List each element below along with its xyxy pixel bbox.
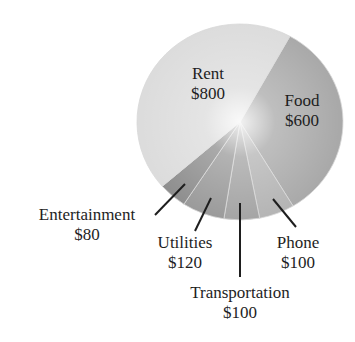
label-phone-value: $100 <box>263 253 333 273</box>
label-transportation-name: Transportation <box>175 283 305 303</box>
label-phone-name: Phone <box>263 233 333 253</box>
label-transportation: Transportation $100 <box>175 283 305 323</box>
label-food: Food $600 <box>273 91 331 131</box>
label-rent-value: $800 <box>178 84 238 104</box>
label-entertainment-name: Entertainment <box>22 205 152 225</box>
label-utilities-value: $120 <box>145 253 225 273</box>
label-phone: Phone $100 <box>263 233 333 273</box>
label-rent: Rent $800 <box>178 64 238 104</box>
label-rent-name: Rent <box>178 64 238 84</box>
label-utilities: Utilities $120 <box>145 233 225 273</box>
label-entertainment-value: $80 <box>22 225 152 245</box>
label-food-name: Food <box>273 91 331 111</box>
label-entertainment: Entertainment $80 <box>22 205 152 245</box>
label-transportation-value: $100 <box>175 303 305 323</box>
label-food-value: $600 <box>273 111 331 131</box>
label-utilities-name: Utilities <box>145 233 225 253</box>
